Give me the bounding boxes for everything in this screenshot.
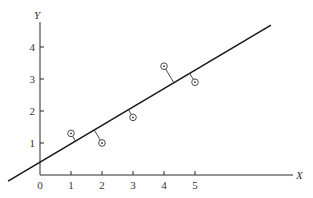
- data-point: [130, 114, 137, 121]
- scatter-regression-chart: X 012345 Y 1234: [0, 0, 313, 198]
- x-axis: X 012345: [37, 169, 304, 191]
- x-ticks: 012345: [37, 171, 198, 191]
- regression-line: [8, 25, 271, 181]
- y-tick-label: 1: [30, 137, 36, 149]
- data-point: [161, 63, 168, 70]
- y-axis: Y 1234: [30, 9, 45, 175]
- x-tick-label: 0: [37, 179, 43, 191]
- marker-center-dot: [163, 65, 165, 67]
- y-tick-label: 4: [30, 41, 36, 53]
- residual-segments: [73, 69, 194, 141]
- data-point: [192, 79, 199, 86]
- marker-center-dot: [101, 142, 103, 144]
- y-tick-label: 3: [30, 73, 36, 85]
- residual-segment: [166, 69, 174, 83]
- x-axis-label: X: [295, 169, 304, 181]
- residual-segment: [190, 73, 194, 79]
- x-tick-label: 4: [161, 179, 167, 191]
- data-point: [99, 140, 106, 147]
- y-tick-label: 2: [30, 105, 36, 117]
- x-tick-label: 2: [99, 179, 105, 191]
- residual-segment: [128, 110, 131, 115]
- y-axis-label: Y: [34, 9, 42, 21]
- marker-center-dot: [132, 117, 134, 119]
- marker-center-dot: [70, 133, 72, 135]
- data-point: [68, 130, 75, 137]
- x-tick-label: 5: [192, 179, 198, 191]
- residual-segment: [94, 130, 100, 140]
- marker-center-dot: [194, 81, 196, 83]
- residual-segment: [73, 136, 76, 141]
- x-tick-label: 3: [130, 179, 136, 191]
- x-tick-label: 1: [68, 179, 74, 191]
- y-ticks: 1234: [30, 41, 45, 149]
